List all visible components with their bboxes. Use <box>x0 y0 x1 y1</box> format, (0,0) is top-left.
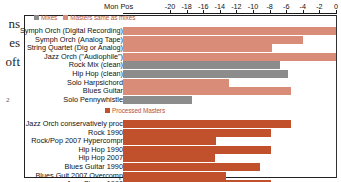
bar <box>123 120 291 128</box>
bar <box>123 96 192 104</box>
bar <box>123 180 271 182</box>
legend-entry: Mixes <box>34 14 57 21</box>
bar-row: Jazz Orch conservatively proc <box>26 120 337 128</box>
bar <box>123 129 271 137</box>
bar <box>123 44 272 52</box>
figure-root: nsesoft 2 Mon Pos -20-18-16-14-12-10-8-6… <box>0 0 341 182</box>
legend-entry: Processed Masters <box>105 107 165 114</box>
legend-label: Processed Masters <box>112 107 165 114</box>
legend-label: Mixes <box>41 14 57 21</box>
bar <box>123 163 260 171</box>
legend-swatch-icon <box>63 15 68 20</box>
bar-row: Solo Pennywhistle <box>26 96 337 104</box>
bar <box>123 154 215 162</box>
bar <box>123 87 291 95</box>
bar <box>123 70 288 78</box>
bar <box>123 36 303 44</box>
bar <box>123 61 280 69</box>
bar-rows-container: MixesMasters same as mixesSymph Orch (Di… <box>0 0 341 182</box>
legend-swatch-icon <box>34 15 39 20</box>
legend-mixes-masters: MixesMasters same as mixes <box>26 14 337 22</box>
legend-entry: Masters same as mixes <box>63 14 135 21</box>
bar-row-label: Jazz Singer 1990 <box>67 179 123 182</box>
legend-swatch-icon <box>105 108 110 113</box>
bar-row: Jazz Singer 1990 <box>26 180 337 182</box>
bar-row: Hip Hop 1990 <box>26 146 337 154</box>
bar <box>123 79 229 87</box>
bar-row: Solo Harpsichord <box>26 79 337 87</box>
bar <box>123 53 336 61</box>
bar <box>123 27 336 35</box>
bar <box>123 137 216 145</box>
bar <box>123 146 271 154</box>
legend-processed-masters: Processed Masters <box>26 107 337 115</box>
bar-row: Rock/Pop 2007 Hypercompr <box>26 137 337 145</box>
bar <box>123 172 226 180</box>
legend-label: Masters same as mixes <box>70 14 135 21</box>
bar-row-label: Solo Pennywhistle <box>63 95 123 104</box>
